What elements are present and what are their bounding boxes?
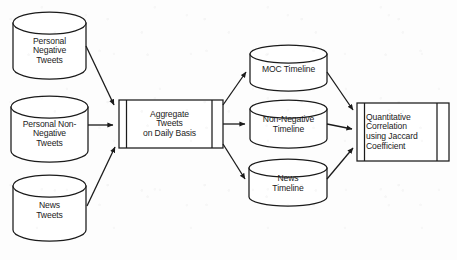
connector-aggregate-to-news-timeline xyxy=(223,144,245,179)
connector-moc-timeline-to-correlation xyxy=(327,72,353,110)
source-cylinder-personal-non-negative-tweets xyxy=(11,96,88,162)
process-box-aggregate-tweets xyxy=(119,100,223,148)
diagram-shapes-layer xyxy=(0,0,457,260)
source-cylinder-personal-negative-tweets xyxy=(13,12,86,79)
connector-aggregate-to-moc-timeline xyxy=(223,72,246,105)
process-box-quantitative-correlation xyxy=(357,103,449,161)
connector-news-tweets-to-aggregate xyxy=(87,147,115,206)
source-cylinder-news-tweets xyxy=(13,175,86,241)
flowchart-diagram: Personal Negative Tweets Personal Non- N… xyxy=(0,0,457,260)
timeline-cylinder-non-negative-timeline xyxy=(250,100,327,148)
timeline-cylinder-news-timeline xyxy=(249,159,327,206)
connector-non-negative-timeline-to-correlation xyxy=(327,124,352,129)
timeline-cylinder-moc-timeline xyxy=(250,45,327,91)
connector-news-timeline-to-correlation xyxy=(327,148,353,179)
connector-personal-negative-to-aggregate xyxy=(86,46,114,105)
